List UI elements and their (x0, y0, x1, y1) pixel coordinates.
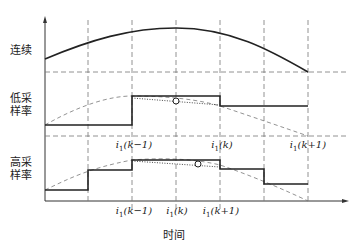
row-label-high-rate-2: 样率 (10, 169, 32, 182)
high-rate-steps (45, 160, 308, 190)
row-label-low-rate-2: 样率 (10, 105, 32, 118)
row-label-low-rate-1: 低采 (10, 92, 32, 105)
high-rate-sample-point (195, 161, 201, 167)
high-tick-k+1: i1(k+1) (203, 205, 239, 219)
y-axis-arrow-icon (43, 16, 47, 23)
low-tick-k+1: i1(k+1) (290, 139, 326, 153)
low-rate-sample-point (173, 98, 179, 104)
high-rate-trend (45, 159, 308, 201)
continuous-curve (45, 28, 308, 72)
low-tick-k-1: i1(k−1) (116, 139, 152, 153)
high-tick-k-1: i1(k−1) (116, 205, 152, 219)
x-axis-label: 时间 (163, 229, 185, 242)
high-tick-k: i1(k) (166, 205, 188, 219)
row-label-continuous: 连续 (10, 44, 32, 57)
row-label-high-rate-1: 高采 (10, 156, 32, 169)
low-tick-k: i1(k) (211, 139, 233, 153)
x-axis-arrow-icon (342, 199, 349, 203)
